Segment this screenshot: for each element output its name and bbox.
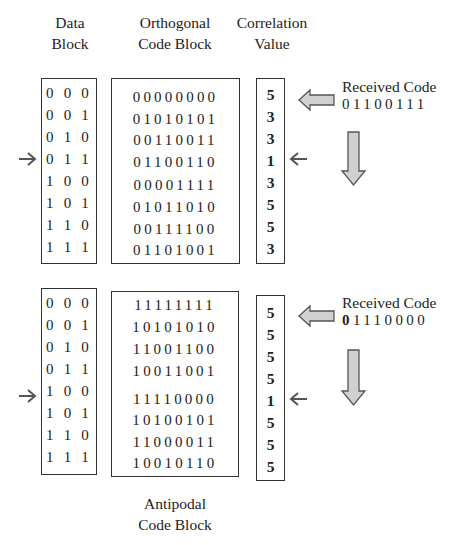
received-code-title: Received Code <box>342 294 436 312</box>
data-row: 0 0 0 <box>42 85 96 102</box>
code-row: 00000000 <box>112 89 239 106</box>
antipodal-block-caption: Antipodal Code Block <box>120 493 230 535</box>
received-code-bits: 1110000 <box>353 312 428 328</box>
antipodal-code-block: 11111111 10101010 11001100 10011001 1111… <box>111 291 239 477</box>
data-row: 1 0 1 <box>42 195 96 212</box>
caption-line: Antipodal <box>120 493 230 514</box>
code-row: 10100101 <box>112 412 238 429</box>
received-code-bits: 01100111 <box>342 96 428 112</box>
code-row: 11000011 <box>112 434 238 451</box>
received-code-bottom: Received Code 01110000 <box>342 294 436 329</box>
data-row: 0 0 1 <box>42 317 96 334</box>
header-line: Code Block <box>120 33 230 54</box>
code-row: 10011001 <box>112 363 238 380</box>
correlation-value: 3 <box>257 240 284 258</box>
data-row: 0 1 1 <box>42 151 96 168</box>
selected-row-arrow-icon <box>18 152 38 166</box>
code-row: 01011010 <box>112 199 239 216</box>
code-row: 11111111 <box>112 297 238 314</box>
data-block-top: 0 0 0 0 0 1 0 1 0 0 1 1 1 0 0 1 0 1 1 1 … <box>41 78 97 264</box>
code-row: 10010110 <box>112 455 238 472</box>
correlation-value: 1 <box>257 152 284 170</box>
received-code-title: Received Code <box>342 78 436 96</box>
data-row: 0 0 0 <box>42 295 96 312</box>
min-correlation-arrow-icon <box>288 392 308 406</box>
data-row: 0 1 0 <box>42 129 96 146</box>
correlation-value: 3 <box>257 174 284 192</box>
received-code-value: 01100111 <box>342 96 436 113</box>
correlation-value: 5 <box>257 436 284 454</box>
correlation-value: 3 <box>257 130 284 148</box>
correlation-value: 3 <box>257 108 284 126</box>
data-row: 1 1 1 <box>42 449 96 466</box>
code-row: 11110000 <box>112 391 238 408</box>
received-code-left-arrow-icon <box>298 89 336 111</box>
code-row: 00111100 <box>112 221 239 238</box>
header-line: Correlation <box>232 12 312 33</box>
correlation-value: 5 <box>257 86 284 104</box>
data-row: 1 0 0 <box>42 173 96 190</box>
correlation-value: 5 <box>257 458 284 476</box>
data-block-bottom: 0 0 0 0 0 1 0 1 0 0 1 1 1 0 0 1 0 1 1 1 … <box>41 288 97 475</box>
data-row: 0 1 0 <box>42 339 96 356</box>
correlation-value: 5 <box>257 326 284 344</box>
correlation-value: 5 <box>257 196 284 214</box>
correlation-header: Correlation Value <box>232 12 312 54</box>
correlation-value: 5 <box>257 348 284 366</box>
orthogonal-code-block: 00000000 01010101 00110011 01100110 0000… <box>111 78 240 264</box>
header-line: Value <box>232 33 312 54</box>
received-code-down-arrow-icon <box>342 131 366 187</box>
header-line: Block <box>42 33 98 54</box>
code-row: 11001100 <box>112 341 238 358</box>
correlation-block-bottom: 5 5 5 5 1 5 5 5 <box>256 295 285 481</box>
received-code-bit-bold: 0 <box>342 312 353 328</box>
data-row: 1 1 1 <box>42 239 96 256</box>
header-line: Orthogonal <box>120 12 230 33</box>
received-code-down-arrow-icon <box>342 349 366 407</box>
min-correlation-arrow-icon <box>288 152 308 166</box>
data-row: 1 0 0 <box>42 383 96 400</box>
correlation-value: 5 <box>257 370 284 388</box>
data-block-header: Data Block <box>42 12 98 54</box>
correlation-value: 1 <box>257 392 284 410</box>
received-code-left-arrow-icon <box>298 305 336 327</box>
data-row: 1 1 0 <box>42 217 96 234</box>
code-row: 00110011 <box>112 132 239 149</box>
code-row: 10101010 <box>112 319 238 336</box>
received-code-value: 01110000 <box>342 312 436 329</box>
code-row: 01010101 <box>112 111 239 128</box>
data-row: 0 0 1 <box>42 107 96 124</box>
correlation-block-top: 5 3 3 1 3 5 5 3 <box>256 78 285 264</box>
code-row: 00001111 <box>112 177 239 194</box>
code-row: 01100110 <box>112 154 239 171</box>
correlation-value: 5 <box>257 304 284 322</box>
orthogonal-block-header: Orthogonal Code Block <box>120 12 230 54</box>
selected-row-arrow-icon <box>18 389 38 403</box>
data-row: 0 1 1 <box>42 361 96 378</box>
data-row: 1 1 0 <box>42 427 96 444</box>
code-row: 01101001 <box>112 242 239 259</box>
header-line: Data <box>42 12 98 33</box>
correlation-value: 5 <box>257 414 284 432</box>
caption-line: Code Block <box>120 514 230 535</box>
correlation-value: 5 <box>257 218 284 236</box>
data-row: 1 0 1 <box>42 405 96 422</box>
received-code-top: Received Code 01100111 <box>342 78 436 113</box>
